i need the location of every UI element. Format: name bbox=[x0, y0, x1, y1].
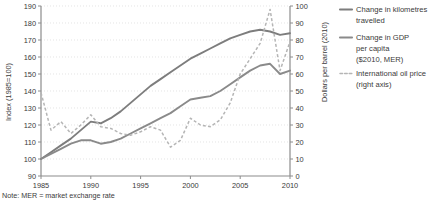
y-tick-label: 90 bbox=[28, 172, 36, 181]
y2-tick-label: 10 bbox=[296, 155, 304, 164]
x-tick-label: 2000 bbox=[182, 181, 198, 190]
legend-label-2-line-0: International oil price bbox=[356, 69, 426, 78]
y2-tick-label: 0 bbox=[296, 172, 300, 181]
y-tick-label: 140 bbox=[24, 87, 36, 96]
y-tick-label: 130 bbox=[24, 104, 36, 113]
x-tick-label: 2005 bbox=[232, 181, 248, 190]
series-line-2 bbox=[41, 9, 290, 147]
legend-label-1-line-2: ($2010, MER) bbox=[356, 55, 404, 64]
y-tick-label: 180 bbox=[24, 19, 36, 28]
chart-note: Note: MER = market exchange rate bbox=[2, 191, 115, 200]
legend-label-1-line-0: Change in GDP bbox=[356, 33, 409, 42]
legend-label-2-line-1: (right axis) bbox=[356, 80, 392, 89]
y-axis-left-title: Index (1985=100) bbox=[4, 63, 13, 121]
legend-label-1-line-1: per capita bbox=[356, 44, 390, 53]
line-chart: 198519901995200020052010 901001101201301… bbox=[0, 0, 437, 201]
y2-tick-label: 20 bbox=[296, 138, 304, 147]
data-series-group bbox=[41, 9, 290, 159]
y-tick-label: 110 bbox=[24, 138, 36, 147]
y-axis-right-ticks: 0102030405060708090100 bbox=[290, 2, 308, 181]
legend-label-0-line-1: travelled bbox=[356, 16, 385, 25]
y-axis-right-title: Dollars per barrel (2010) bbox=[320, 22, 329, 102]
y2-tick-label: 50 bbox=[296, 87, 304, 96]
y-tick-label: 170 bbox=[24, 36, 36, 45]
chart-figure: 198519901995200020052010 901001101201301… bbox=[0, 0, 437, 201]
y2-tick-label: 40 bbox=[296, 104, 304, 113]
y2-tick-label: 100 bbox=[296, 2, 308, 11]
chart-legend: Change in kilometrestravelledChange in G… bbox=[340, 5, 428, 89]
y2-tick-label: 60 bbox=[296, 70, 304, 79]
x-tick-label: 1985 bbox=[33, 181, 49, 190]
x-tick-label: 1990 bbox=[83, 181, 99, 190]
x-tick-label: 2010 bbox=[282, 181, 298, 190]
x-tick-label: 1995 bbox=[132, 181, 148, 190]
y-tick-label: 100 bbox=[24, 155, 36, 164]
y-tick-label: 160 bbox=[24, 53, 36, 62]
legend-label-0-line-0: Change in kilometres bbox=[356, 5, 428, 14]
gridlines bbox=[41, 6, 290, 159]
y-axis-left-ticks: 90100110120130140150160170180190 bbox=[24, 2, 41, 181]
y2-tick-label: 30 bbox=[296, 121, 304, 130]
y-tick-label: 120 bbox=[24, 121, 36, 130]
y-tick-label: 150 bbox=[24, 70, 36, 79]
x-axis-ticks: 198519901995200020052010 bbox=[33, 176, 298, 190]
series-line-1 bbox=[41, 64, 290, 159]
y2-tick-label: 70 bbox=[296, 53, 304, 62]
y2-tick-label: 90 bbox=[296, 19, 304, 28]
y2-tick-label: 80 bbox=[296, 36, 304, 45]
y-tick-label: 190 bbox=[24, 2, 36, 11]
